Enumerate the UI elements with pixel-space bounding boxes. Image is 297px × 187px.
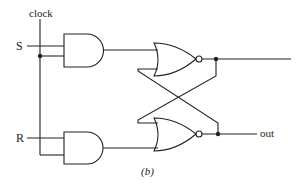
out-label: out [260,127,274,139]
clock-junction-dot [38,54,42,58]
and-gate-bottom [64,132,103,164]
clocked-sr-latch-diagram: clock S R out (b) [0,0,297,187]
figure-caption: (b) [141,165,154,178]
nor-top-bubble [196,56,202,62]
nor-bottom-bubble [196,131,202,137]
and-gate-top [64,34,104,67]
s-label: S [16,39,23,53]
nor-bottom-junction-dot [216,132,220,136]
r-label: R [16,131,24,145]
circuit-svg: clock S R out (b) [0,0,297,187]
nor-top-junction-dot [214,57,218,61]
clock-label: clock [29,7,53,19]
nor-gate-top [154,43,196,76]
nor-gate-bottom [154,118,196,151]
feedback-bottom-to-top-wire [138,69,218,134]
